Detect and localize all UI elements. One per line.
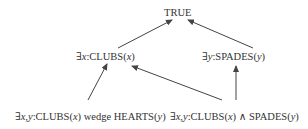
edge-wedge-hearts-to-clubs (88, 64, 107, 100)
node-true-label: TRUE (164, 7, 191, 18)
edge-layer (0, 0, 308, 129)
node-clubs-and-spades: ∃x,y:CLUBS(x) ∧ SPADES(y) (170, 111, 299, 123)
node-true: TRUE (164, 7, 191, 19)
node-clubs-wedge-hearts: ∃x,y:CLUBS(x) wedge HEARTS(y) (15, 111, 166, 123)
edge-spades-to-true (188, 20, 253, 48)
edge-and-spades-to-clubs (132, 66, 222, 100)
node-exists-clubs: ∃x:CLUBS(x) (76, 51, 135, 63)
node-exists-spades: ∃y:SPADES(y) (202, 51, 265, 63)
edge-clubs-to-true (118, 20, 172, 48)
